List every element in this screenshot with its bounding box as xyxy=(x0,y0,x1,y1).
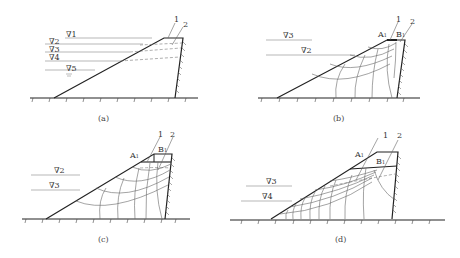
point-a-label: A1 xyxy=(377,30,387,39)
panel-d: ∇3 ∇4 1 2 A1 B1 (d) xyxy=(230,131,445,244)
panel-caption: (a) xyxy=(98,114,109,123)
dam-outline xyxy=(46,154,172,219)
line-label-1: 1 xyxy=(158,130,163,139)
line-label-1: 1 xyxy=(174,15,179,24)
panel-caption: (c) xyxy=(98,235,109,244)
water-level-label: ∇1 xyxy=(66,30,77,39)
water-level-label: ∇4 xyxy=(262,192,273,201)
line-label-2: 2 xyxy=(170,130,175,139)
point-a-label: A1 xyxy=(129,151,139,160)
water-level-label: ∇3 xyxy=(266,177,277,186)
point-b-label: B1 xyxy=(396,30,405,39)
water-level-label: ∇2 xyxy=(54,166,65,175)
figure-canvas: ∇1 ∇2 ∇3 ∇4 ∇5 1 2 (a) ∇3 xyxy=(0,0,460,258)
panel-c: ∇2 ∇3 1 2 A1 B1 (c) xyxy=(22,130,190,244)
water-level-label: ∇2 xyxy=(301,46,312,55)
line-label-2: 2 xyxy=(397,131,402,140)
water-level-label: ∇4 xyxy=(49,53,60,62)
point-b-label: B1 xyxy=(376,157,385,166)
water-level-label: ∇5 xyxy=(66,64,77,73)
panel-b: ∇3 ∇2 1 2 A1 B1 (b) xyxy=(258,15,420,123)
panel-a: ∇1 ∇2 ∇3 ∇4 ∇5 1 2 (a) xyxy=(30,15,198,123)
panel-caption: (b) xyxy=(333,114,344,123)
line-label-1: 1 xyxy=(396,15,401,24)
dam-outline xyxy=(277,40,405,98)
point-b-label: B1 xyxy=(158,145,167,154)
line-label-2: 2 xyxy=(183,20,188,29)
line-label-2: 2 xyxy=(410,17,415,26)
water-level-label: ∇3 xyxy=(283,31,294,40)
panel-caption: (d) xyxy=(335,235,346,244)
line-label-1: 1 xyxy=(383,131,388,140)
point-a-label: A1 xyxy=(354,150,364,159)
water-level-label: ∇3 xyxy=(49,181,60,190)
